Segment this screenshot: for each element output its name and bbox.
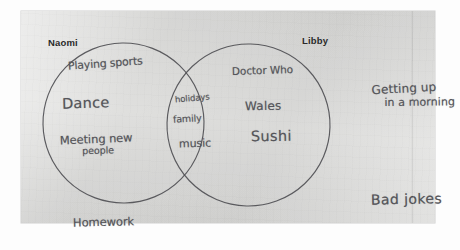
item-right-wales: Wales — [245, 100, 282, 113]
item-left-meeting-line2: people — [82, 145, 133, 157]
label-naomi: Naomi — [48, 37, 78, 48]
paper-sheet: Naomi Libby Playing sports Dance Meeting… — [21, 11, 435, 223]
item-left-dance: Dance — [62, 95, 110, 112]
item-outside-bad-jokes: Bad jokes — [371, 191, 442, 208]
label-libby: Libby — [302, 35, 328, 46]
item-shared-music: music — [179, 138, 211, 151]
item-right-sushi: Sushi — [251, 129, 292, 145]
item-outside-getting-up: Getting up in a morning — [371, 80, 455, 111]
item-outside-homework: Homework — [73, 215, 134, 229]
item-right-doctor-who: Doctor Who — [232, 64, 293, 77]
screenshot-canvas: Naomi Libby Playing sports Dance Meeting… — [0, 0, 460, 250]
item-shared-family: family — [173, 113, 202, 125]
item-left-meeting-new-people: Meeting new people — [60, 131, 134, 158]
item-outside-getting-up-line2: in a morning — [384, 96, 455, 109]
